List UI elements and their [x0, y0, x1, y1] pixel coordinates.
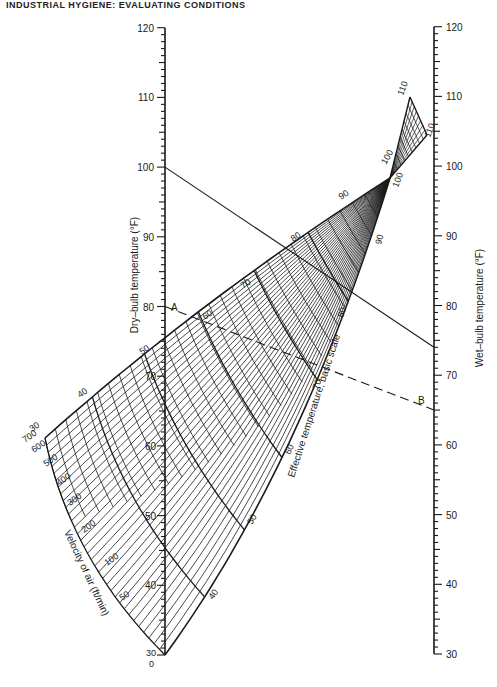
effective-temperature-major-line	[45, 438, 165, 655]
dry-bulb-inner-label: 60	[145, 441, 157, 452]
nomogram-grid	[45, 97, 427, 655]
velocity-label: 0	[149, 659, 154, 669]
velocity-label: 200	[79, 518, 97, 535]
wet-bulb-tick-label: 70	[446, 370, 458, 381]
effective-temperature-line	[108, 383, 154, 490]
example-lines	[165, 167, 434, 410]
velocity-curve	[129, 178, 390, 615]
wet-bulb-tick-label: 30	[446, 649, 458, 660]
et-upper-label: 80	[289, 230, 303, 244]
point-a-label: A	[171, 302, 178, 313]
velocity-label: 50	[117, 589, 131, 603]
effective-temperature-line	[186, 321, 247, 436]
et-upper-label: 40	[75, 386, 89, 400]
wet-bulb-tick-label: 110	[446, 91, 462, 102]
dry-bulb-tick-label: 120	[137, 23, 154, 34]
velocity-label: 30	[146, 648, 156, 658]
wet-bulb-tick-label: 120	[446, 22, 463, 33]
effective-temperature-line	[175, 330, 235, 445]
dry-bulb-tick-label: 90	[143, 232, 155, 243]
et-lower-label: 90	[373, 233, 385, 245]
velocity-title: Velocity of air (ft/min)	[62, 528, 111, 617]
axes	[157, 27, 442, 655]
et-upper-label: 110	[395, 80, 409, 97]
dry-bulb-inner-label: 70	[145, 371, 157, 382]
et-upper-label: 90	[337, 188, 351, 202]
wet-bulb-tick-label: 60	[446, 440, 458, 451]
et-upper-label: 100	[379, 148, 395, 166]
wet-bulb-axis-title: Wet–bulb temperature (°F)	[474, 249, 485, 367]
et-upper-label: 60	[200, 308, 214, 322]
wet-bulb-tick-label: 40	[446, 579, 458, 590]
dry-bulb-inner-label: 50	[145, 511, 157, 522]
wet-bulb-tick-label: 100	[446, 161, 463, 172]
et-upper-label: 50	[137, 343, 151, 357]
effective-temperature-nomogram: 8090100110120Dry–bulb temperature (°F)30…	[0, 0, 497, 687]
effective-temperature-line	[130, 366, 182, 478]
et-upper-label: 70	[239, 277, 253, 291]
wet-bulb-tick-label: 90	[446, 231, 458, 242]
wet-bulb-tick-label: 80	[446, 301, 458, 312]
dry-bulb-tick-label: 110	[138, 92, 154, 103]
dry-bulb-inner-label: 40	[145, 580, 157, 591]
dry-bulb-axis-title: Dry–bulb temperature (°F)	[129, 217, 140, 333]
wet-bulb-tick-label: 50	[446, 510, 458, 521]
velocity-label: 500	[41, 452, 59, 469]
point-b-label: B	[418, 395, 425, 406]
dry-bulb-tick-label: 100	[137, 162, 154, 173]
dry-bulb-tick-label: 80	[143, 302, 155, 313]
